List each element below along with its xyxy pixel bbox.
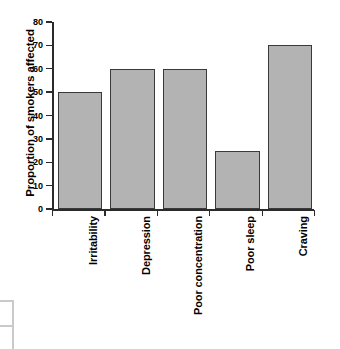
y-axis-tick-label: 80 (33, 17, 43, 27)
x-axis-line (52, 209, 314, 211)
x-axis-tick (314, 210, 315, 216)
y-axis-tick-label: 10 (33, 181, 43, 191)
bar (215, 151, 259, 209)
bar (163, 69, 207, 209)
x-axis-category-label: Poor sleep (243, 216, 257, 271)
y-axis-tick-label: 70 (33, 40, 43, 50)
x-axis-category-label: Depression (139, 216, 153, 275)
y-axis-tick (46, 45, 52, 46)
x-axis-category-label: Irritability (86, 216, 100, 265)
y-axis-tick (46, 115, 52, 116)
bar (268, 45, 312, 209)
y-axis-tick (46, 185, 52, 186)
y-axis-tick (46, 162, 52, 163)
y-axis-tick (46, 138, 52, 139)
x-axis-category-labels: IrritabilityDepressionPoor concentration… (52, 216, 314, 346)
y-axis-tick-label: 0 (38, 204, 43, 214)
plot-area: 01020304050607080 (52, 22, 314, 209)
y-axis-tick (46, 91, 52, 92)
x-axis-category-label: Poor concentration (191, 216, 205, 315)
table-fragment (0, 300, 26, 349)
bar-chart-figure: Proportion of smokers affected 010203040… (0, 0, 340, 349)
y-axis-tick (46, 21, 52, 22)
table-fragment-horizontal-rule (0, 325, 14, 327)
y-axis-tick (46, 68, 52, 69)
y-axis-tick-label: 30 (33, 134, 43, 144)
y-axis-tick-label: 40 (33, 111, 43, 121)
y-axis-line (52, 22, 54, 209)
y-axis-tick-label: 50 (33, 87, 43, 97)
bar (110, 69, 154, 209)
y-axis-tick-label: 20 (33, 157, 43, 167)
y-axis-tick-label: 60 (33, 64, 43, 74)
x-axis-category-label: Craving (296, 216, 310, 256)
bar (58, 92, 102, 209)
